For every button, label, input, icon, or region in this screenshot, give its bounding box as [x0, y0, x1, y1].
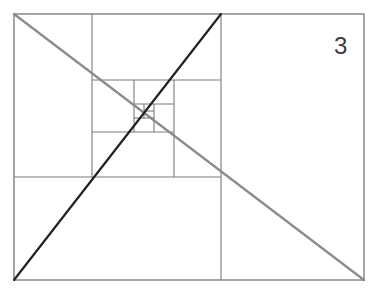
golden-rectangle-diagram	[0, 0, 375, 296]
background	[0, 0, 375, 296]
figure-label: 3	[334, 34, 347, 58]
